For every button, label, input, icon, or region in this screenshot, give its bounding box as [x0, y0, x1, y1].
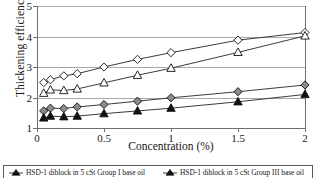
data-point-filled-diamond: [73, 103, 81, 111]
chart-figure: Thickening efficiency (TE) 12345 00.511.…: [0, 0, 318, 178]
data-point-filled-diamond: [133, 97, 141, 105]
data-point-open-diamond: [133, 55, 141, 63]
y-tick-label: 5: [27, 1, 33, 12]
legend-marker-filled-triangle-icon: [163, 168, 177, 177]
legend-marker-filled-triangle-icon: [9, 168, 23, 177]
chart-legend: HSD-1 diblock in 5 cSt Group I base oilH…: [3, 165, 313, 178]
data-point-filled-diamond: [167, 94, 175, 102]
series-open-diamond: [40, 28, 310, 86]
series-open-triangle: [40, 31, 310, 96]
y-axis-title: Thickening efficiency (TE): [14, 0, 28, 100]
y-tick-label: 2: [27, 92, 33, 103]
legend-label: HSD-1 diblock in 5 cSt Group III base oi…: [180, 168, 304, 177]
series-line: [44, 36, 305, 93]
legend-item: HSD-1 diblock in 5 cSt Group III base oi…: [158, 168, 312, 177]
data-point-open-triangle: [46, 85, 54, 93]
data-point-filled-triangle: [301, 90, 309, 98]
plot-area: 12345 00.511.52: [37, 6, 305, 128]
data-point-open-diamond: [100, 63, 108, 71]
y-tick-label: 4: [27, 31, 33, 42]
y-tick-label: 1: [27, 123, 33, 134]
data-point-filled-triangle: [46, 112, 54, 120]
data-point-filled-diamond: [301, 81, 309, 89]
series-line: [44, 33, 305, 83]
data-point-open-diamond: [60, 72, 68, 80]
y-tick-label: 3: [27, 62, 33, 73]
data-point-filled-diamond: [60, 104, 68, 112]
data-point-filled-diamond: [234, 88, 242, 96]
legend-label: HSD-1 diblock in 5 cSt Group I base oil: [26, 168, 145, 177]
data-point-open-diamond: [73, 70, 81, 78]
data-series-layer: [37, 6, 305, 128]
plot-canvas: 12345 00.511.52: [37, 6, 305, 128]
data-point-open-diamond: [234, 36, 242, 44]
plot-right-border: [305, 6, 306, 128]
data-point-open-diamond: [167, 49, 175, 57]
legend-item: HSD-1 diblock in 5 cSt Group I base oil: [4, 168, 158, 177]
data-point-filled-diamond: [100, 100, 108, 108]
x-axis-title: Concentration (%): [37, 140, 305, 152]
